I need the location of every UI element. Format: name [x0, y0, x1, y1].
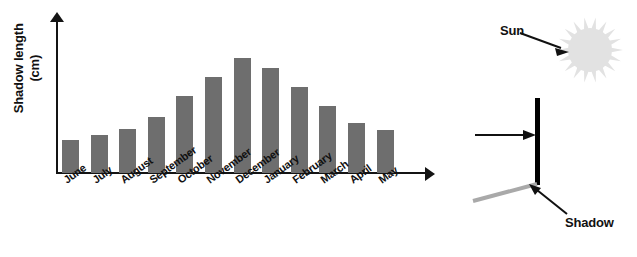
sun-pointer-arrow [520, 33, 569, 56]
x-axis-tick-labels: JuneJulyAugustSeptemberOctoberNovemberDe… [58, 176, 438, 236]
shadow-line [473, 184, 537, 201]
shadow-length-bar-chart: Shadow length (cm) JuneJulyAugustSeptemb… [0, 0, 455, 257]
y-axis-title-line2: (cm) [27, 55, 42, 82]
sun-icon [557, 18, 623, 83]
sun-label: Sun [500, 23, 524, 38]
shadow-pointer-arrow [529, 184, 567, 214]
y-axis-title: Shadow length (cm) [11, 3, 44, 133]
y-axis-title-line1: Shadow length [11, 23, 26, 113]
figure-root: Shadow length (cm) JuneJulyAugustSeptemb… [0, 0, 637, 257]
stick-pointer-arrow [475, 130, 536, 140]
sun-shadow-diagram: Sun Shadow [455, 0, 637, 257]
shadow-label: Shadow [565, 215, 614, 230]
stick-object [535, 98, 540, 185]
